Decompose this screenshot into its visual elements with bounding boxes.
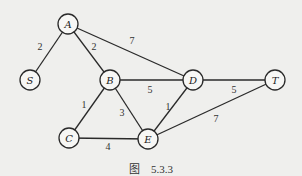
caption-number: 5.3.3 — [151, 163, 173, 175]
node-b: B — [100, 70, 120, 90]
edge-a-d — [68, 24, 193, 80]
edge-weight-b-e: 3 — [120, 107, 125, 118]
nodes-layer: ASBDTCE — [20, 14, 285, 149]
node-c: C — [59, 128, 79, 148]
node-a: A — [58, 14, 78, 34]
node-t: T — [265, 70, 285, 90]
node-label: E — [143, 134, 152, 145]
node-label: B — [105, 75, 113, 86]
graph-canvas: 2275134157 ASBDTCE — [0, 0, 302, 176]
node-label: C — [65, 133, 73, 144]
caption-prefix: 图 — [129, 163, 140, 175]
edge-weight-a-s: 2 — [38, 41, 43, 52]
graph-figure: 2275134157 ASBDTCE 图 5.3.3 — [0, 0, 302, 176]
node-label: D — [188, 75, 197, 86]
node-d: D — [183, 70, 203, 90]
node-e: E — [138, 129, 158, 149]
edge-d-e — [148, 80, 193, 139]
edge-weight-d-t: 5 — [232, 84, 237, 95]
edge-c-e — [69, 138, 148, 139]
edge-b-c — [69, 80, 110, 138]
edge-weight-a-d: 7 — [130, 35, 135, 46]
edge-weight-b-c: 1 — [82, 99, 87, 110]
edge-weight-b-d: 5 — [148, 84, 153, 95]
node-label: S — [27, 75, 34, 86]
node-s: S — [20, 70, 40, 90]
node-label: A — [63, 19, 71, 30]
edge-weight-c-e: 4 — [106, 141, 111, 152]
edge-weight-d-e: 1 — [166, 101, 171, 112]
edges-layer — [30, 24, 275, 139]
figure-caption: 图 5.3.3 — [0, 160, 302, 176]
edge-weight-a-b: 2 — [92, 41, 97, 52]
edge-weight-e-t: 7 — [214, 113, 219, 124]
